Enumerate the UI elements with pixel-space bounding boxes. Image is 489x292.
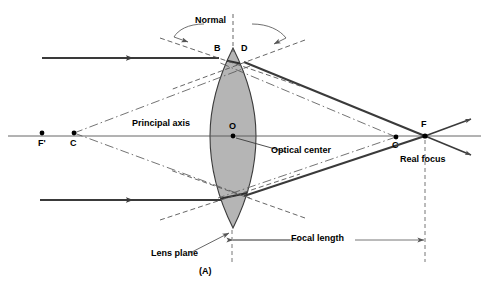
normal-leader-left-arrow	[174, 37, 188, 42]
normal-label: Normal	[195, 16, 226, 25]
point-dot-c-left	[72, 131, 77, 136]
point-label-b: B	[214, 44, 221, 53]
point-dot-f-prime	[40, 131, 45, 136]
refracted-ray-top	[244, 62, 425, 136]
point-label-f: F	[421, 120, 427, 129]
point-dot-o	[231, 134, 236, 139]
focal-length-label: Focal length	[291, 234, 344, 243]
principal-axis-label: Principal axis	[132, 119, 190, 128]
point-label-f-prime: F'	[38, 139, 46, 148]
normal-leader-right-arrow	[274, 38, 286, 44]
figure-caption: (A)	[199, 267, 212, 276]
normal-leader-left	[174, 24, 204, 37]
ray-past-focus-down	[425, 136, 471, 155]
ray-past-focus-up	[425, 119, 471, 136]
real-focus-label: Real focus	[400, 155, 446, 164]
point-dot-f	[422, 133, 427, 138]
optical-center-label: Optical center	[271, 146, 331, 155]
point-label-o: O	[229, 122, 236, 131]
point-dot-c-right	[394, 135, 399, 140]
point-label-c-left: C	[70, 139, 77, 148]
point-label-c-right: C	[392, 141, 399, 150]
normal-leader-right	[252, 24, 286, 38]
lens-plane-label: Lens plane	[151, 249, 198, 258]
point-label-d: D	[241, 44, 248, 53]
